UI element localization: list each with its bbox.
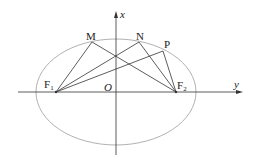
segment-N-F2 (139, 42, 176, 92)
focus-F2-label: F2 (177, 79, 187, 93)
vertical-axis-arrow-icon (114, 11, 118, 18)
horizontal-axis-arrow-icon (236, 90, 243, 94)
focus-F1-dot (55, 91, 57, 93)
segment-F1-M (56, 42, 92, 92)
horizontal-axis-label: y (233, 78, 239, 90)
point-N-label: N (136, 30, 144, 42)
point-P-label: P (164, 38, 170, 50)
ellipse-diagram: x y O M N P F1 F2 (0, 0, 255, 166)
focus-F2-dot (175, 91, 177, 93)
origin-label: O (104, 81, 112, 93)
focus-F1-label: F1 (44, 78, 54, 92)
vertical-axis-label: x (119, 8, 125, 20)
point-M-label: M (86, 30, 96, 42)
